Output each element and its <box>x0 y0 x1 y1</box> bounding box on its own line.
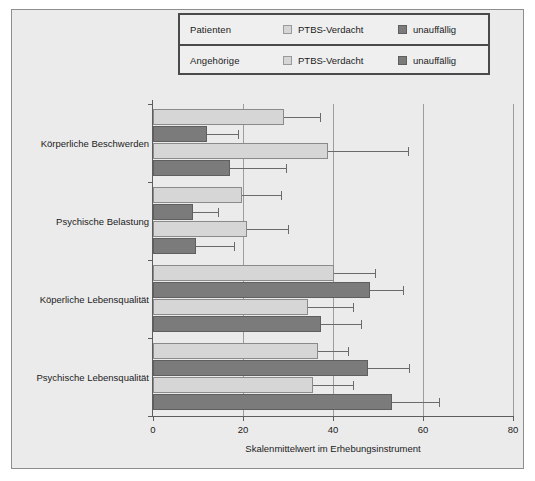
error-bar-line <box>242 195 281 196</box>
error-bar-line <box>247 229 288 230</box>
bar-group <box>153 260 513 338</box>
bar-row <box>153 238 513 254</box>
bar-group <box>153 104 513 182</box>
error-bar-cap <box>353 303 354 312</box>
error-bar-line <box>230 168 286 169</box>
bar[interactable] <box>153 238 196 254</box>
legend-swatch-patienten-ptbs <box>283 25 292 34</box>
bar[interactable] <box>153 265 334 281</box>
legend-entry-label: PTBS-Verdacht <box>298 55 363 66</box>
error-bar-line <box>196 246 234 247</box>
bar-row <box>153 126 513 142</box>
legend-swatch-patienten-unauffaellig <box>398 25 407 34</box>
error-bar-line <box>334 273 375 274</box>
legend-row-angehoerige: Angehörige PTBS-Verdacht unauffällig <box>180 44 488 75</box>
error-bar-cap <box>403 286 404 295</box>
bar-row <box>153 221 513 237</box>
legend-entry-angehoerige-unauffaellig: unauffällig <box>398 55 456 66</box>
error-bar-line <box>318 351 348 352</box>
error-bar-cap <box>353 381 354 390</box>
bar[interactable] <box>153 316 321 332</box>
legend-entry-angehoerige-ptbs: PTBS-Verdacht <box>283 55 363 66</box>
legend-entry-patienten-ptbs: PTBS-Verdacht <box>283 24 363 35</box>
bar[interactable] <box>153 299 308 315</box>
bar-row <box>153 187 513 203</box>
x-axis-tick-label: 80 <box>508 424 519 435</box>
legend-entry-label: unauffällig <box>413 55 456 66</box>
legend-swatch-angehoerige-ptbs <box>283 56 292 65</box>
y-axis-category-label: Köperliche Lebensqualität <box>9 294 149 305</box>
bar-row <box>153 109 513 125</box>
error-bar-cap <box>408 147 409 156</box>
error-bar-cap <box>218 208 219 217</box>
legend-entry-label: PTBS-Verdacht <box>298 24 363 35</box>
error-bar-line <box>308 307 353 308</box>
bar-group <box>153 182 513 260</box>
x-axis-tick-label: 0 <box>150 424 155 435</box>
legend-entry-label: unauffällig <box>413 24 456 35</box>
error-bar-cap <box>281 191 282 200</box>
error-bar-cap <box>375 269 376 278</box>
bar[interactable] <box>153 204 193 220</box>
legend-group-label-patienten: Patienten <box>190 24 231 35</box>
error-bar-line <box>284 117 320 118</box>
error-bar-line <box>313 385 354 386</box>
error-bar-cap <box>238 130 239 139</box>
legend-entry-patienten-unauffaellig: unauffällig <box>398 24 456 35</box>
bar-row <box>153 204 513 220</box>
x-axis-title: Skalenmittelwert im Erhebungsinstrument <box>153 443 513 454</box>
bar[interactable] <box>153 221 247 237</box>
error-bar-cap <box>288 225 289 234</box>
bar[interactable] <box>153 143 328 159</box>
x-axis-tick-40 <box>333 416 334 421</box>
chart-legend: Patienten PTBS-Verdacht unauffällig Ange… <box>178 13 490 75</box>
bar[interactable] <box>153 187 242 203</box>
bar[interactable] <box>153 282 370 298</box>
bar-row <box>153 299 513 315</box>
bar[interactable] <box>153 394 392 410</box>
x-axis-tick-80 <box>513 416 514 421</box>
error-bar-line <box>392 402 439 403</box>
y-axis-category-label: Körperliche Beschwerden <box>9 138 149 149</box>
bar-row <box>153 377 513 393</box>
error-bar-line <box>370 290 403 291</box>
error-bar-cap <box>409 364 410 373</box>
x-axis-tick-label: 40 <box>328 424 339 435</box>
error-bar-line <box>328 151 408 152</box>
bar[interactable] <box>153 377 313 393</box>
bar-row <box>153 316 513 332</box>
bar[interactable] <box>153 343 318 359</box>
plot-area <box>153 104 513 416</box>
bar-row <box>153 360 513 376</box>
bar-row <box>153 160 513 176</box>
bar-row <box>153 265 513 281</box>
bar-row <box>153 343 513 359</box>
y-axis-labels: Körperliche BeschwerdenPsychische Belast… <box>4 104 149 416</box>
error-bar-line <box>321 324 361 325</box>
error-bar-line <box>193 212 218 213</box>
bar-row <box>153 282 513 298</box>
error-bar-line <box>368 368 409 369</box>
error-bar-cap <box>439 398 440 407</box>
bar-group <box>153 338 513 416</box>
bar-row <box>153 394 513 410</box>
bar[interactable] <box>153 360 368 376</box>
x-axis-tick-label: 20 <box>238 424 249 435</box>
bar[interactable] <box>153 126 207 142</box>
legend-swatch-angehoerige-unauffaellig <box>398 56 407 65</box>
x-axis-tick-60 <box>423 416 424 421</box>
bar-row <box>153 143 513 159</box>
gridline-80 <box>513 104 514 416</box>
error-bar-cap <box>361 320 362 329</box>
y-axis-category-label: Psychische Belastung <box>9 216 149 227</box>
legend-row-patienten: Patienten PTBS-Verdacht unauffällig <box>180 15 488 44</box>
error-bar-line <box>207 134 238 135</box>
x-axis-tick-0 <box>153 416 154 421</box>
error-bar-cap <box>320 113 321 122</box>
x-axis-tick-label: 60 <box>418 424 429 435</box>
x-axis-tick-20 <box>243 416 244 421</box>
figure-root: Patienten PTBS-Verdacht unauffällig Ange… <box>0 0 535 481</box>
bar[interactable] <box>153 109 284 125</box>
bar[interactable] <box>153 160 230 176</box>
y-axis-category-label: Psychische Lebensqualität <box>9 372 149 383</box>
